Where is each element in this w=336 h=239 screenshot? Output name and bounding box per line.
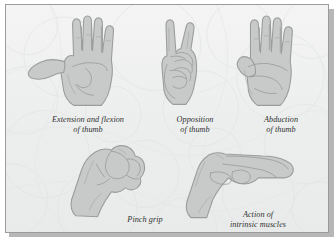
hand-thumb-opposition-icon [162,20,197,104]
caption-extension-flexion-of-thumb: Extension and flexion of thumb [28,115,148,134]
caption-line: of thumb [239,125,323,135]
hand-thumb-abduction-icon [237,16,292,105]
hand-thumb-extension-flexion-icon [28,16,113,105]
caption-line: Extension and flexion [28,115,148,125]
caption-line: Abduction [239,115,323,125]
caption-line: Pinch grip [103,215,187,225]
caption-pinch-grip: Pinch grip [103,215,187,225]
hand-pinch-grip-icon [71,146,145,217]
caption-action-of-intrinsic-muscles: Action of intrinsic muscles [204,210,312,229]
caption-line: of thumb [152,125,238,135]
caption-line: intrinsic muscles [204,220,312,230]
hand-intrinsic-muscles-icon [186,153,293,218]
caption-line: of thumb [28,125,148,135]
caption-line: Action of [204,210,312,220]
caption-abduction-of-thumb: Abduction of thumb [239,115,323,134]
caption-opposition-of-thumb: Opposition of thumb [152,115,238,134]
hand-movements-figure: .hf{fill:#c8cac9;stroke:#9b9d9c;stroke-w… [0,0,336,239]
caption-line: Opposition [152,115,238,125]
illustration-panel: .hf{fill:#c8cac9;stroke:#9b9d9c;stroke-w… [5,4,329,233]
